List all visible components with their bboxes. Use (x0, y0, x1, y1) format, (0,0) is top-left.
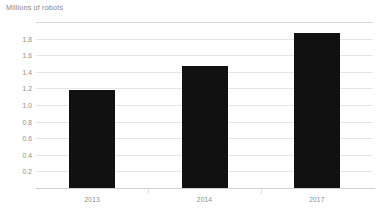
bar (294, 33, 340, 188)
y-tick-label: 1.4 (4, 68, 32, 75)
x-tick-label: 2014 (175, 196, 235, 203)
x-tick-label: 2017 (287, 196, 347, 203)
plot-area (36, 22, 373, 188)
y-tick-label: 1.2 (4, 85, 32, 92)
y-tick-label: 0.8 (4, 118, 32, 125)
y-tick-label: 1.6 (4, 52, 32, 59)
x-category-separator (261, 189, 262, 194)
bar (69, 90, 115, 188)
x-category-separator (148, 189, 149, 194)
x-axis-tick-labels: 201320142017 (36, 189, 373, 214)
y-tick-label: 1.8 (4, 35, 32, 42)
x-tick-label: 2013 (62, 196, 122, 203)
chart-title: Millions of robots (6, 3, 63, 12)
bar (182, 66, 228, 188)
y-tick-label: 0.6 (4, 135, 32, 142)
y-tick-label: 1.0 (4, 102, 32, 109)
y-tick-label: 0.4 (4, 151, 32, 158)
y-axis-tick-labels: 0.20.40.60.81.01.21.41.61.8 (0, 22, 32, 188)
y-tick-label: 0.2 (4, 168, 32, 175)
chart-container: Millions of robots 0.20.40.60.81.01.21.4… (0, 0, 381, 214)
plot-top-rule (36, 22, 373, 23)
